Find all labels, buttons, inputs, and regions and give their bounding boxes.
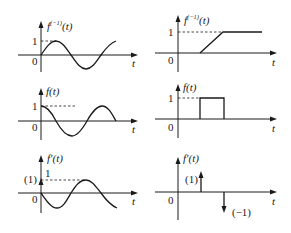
y-label: f(−1)(t)	[47, 19, 73, 33]
panel-middle-left: f(t) 1 0 t	[18, 85, 138, 140]
panel-bottom-right: f′(t) (1) (−1) 0 t	[155, 152, 277, 220]
y-axis-arrow-icon	[176, 157, 181, 164]
x-label: t	[132, 57, 136, 69]
y-axis-arrow-icon	[176, 84, 181, 91]
x-label: t	[272, 56, 276, 68]
origin-label: 0	[168, 121, 174, 133]
signal-diagram: f(−1)(t) 1 0 t f(−1)(t) 1 0 t f(t) 1 0 t	[0, 0, 291, 233]
y-label: f(t)	[46, 85, 60, 98]
impulse-pos-label: (1)	[185, 173, 198, 186]
y-axis-arrow-icon	[176, 15, 181, 22]
level-label: 1	[32, 35, 38, 47]
x-label: t	[272, 195, 276, 207]
x-label: t	[132, 123, 136, 135]
x-label: t	[272, 122, 276, 134]
panel-middle-right: f(t) 1 0 t	[155, 81, 277, 138]
impulse-neg-label: (−1)	[232, 206, 251, 219]
origin-label: 0	[32, 121, 38, 133]
level-label: 1	[32, 100, 38, 112]
level-label: 1	[168, 92, 174, 104]
impulse-arrow-icon	[39, 178, 44, 185]
x-axis-arrow-icon	[270, 117, 277, 122]
origin-label: 0	[168, 54, 174, 66]
x-axis-arrow-icon	[270, 51, 277, 56]
x-label: t	[132, 195, 136, 207]
x-axis-arrow-icon	[270, 190, 277, 195]
y-axis-arrow-icon	[39, 155, 44, 162]
level-label: 1	[168, 26, 174, 38]
y-label: f′(t)	[183, 152, 199, 165]
neg-sine-curve	[41, 180, 117, 208]
ramp-curve	[200, 32, 262, 53]
panel-top-right: f(−1)(t) 1 0 t	[155, 13, 277, 72]
panel-top-left: f(−1)(t) 1 0 t	[18, 19, 138, 72]
negative-impulse-arrow-icon	[222, 206, 227, 213]
pulse-curve	[200, 98, 224, 119]
y-axis-arrow-icon	[39, 21, 44, 28]
level-label: 1	[45, 167, 51, 179]
origin-label: 0	[168, 194, 174, 206]
panel-bottom-left: f′(t) 1 (1) 0 t	[18, 152, 138, 213]
y-label: f′(t)	[47, 152, 63, 165]
origin-label: 0	[32, 55, 38, 67]
y-label: f(−1)(t)	[184, 13, 210, 27]
y-axis-arrow-icon	[39, 88, 44, 95]
impulse-label: (1)	[24, 173, 37, 186]
y-label: f(t)	[183, 81, 197, 94]
origin-label: 0	[32, 193, 38, 205]
positive-impulse-arrow-icon	[199, 171, 204, 178]
